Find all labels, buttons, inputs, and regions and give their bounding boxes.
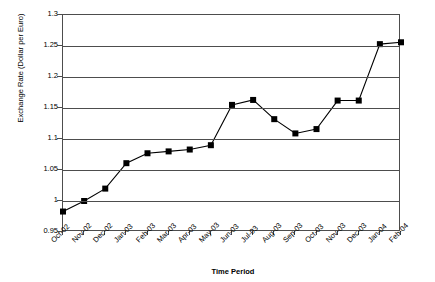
exchange-rate-line-chart: Exchange Rate (Dollar per Euro) 1.31.251… [0,0,435,282]
x-axis-tick-label: Nov-02 [70,221,93,244]
x-axis-tick-label: Jan-03 [112,222,135,245]
x-axis-title: Time Period [150,267,316,276]
x-axis-tick-label: Jun-03 [218,222,241,245]
x-axis-tick-label: Mar-03 [155,221,178,244]
x-axis-tick-label: Dec-03 [345,221,368,244]
x-axis-tick-label: Jul-03 [239,224,260,245]
x-axis-tick-label: Oct-03 [303,222,325,244]
x-axis-tick-label: Dec-02 [91,221,114,244]
x-axis-tick-label: Jan-04 [366,222,389,245]
x-axis-tick-label: Apr-03 [176,222,198,244]
x-axis-tick-label: May-03 [197,220,221,244]
x-axis-tick-label: Nov-03 [324,221,347,244]
x-axis-tick-labels: Oct-02Nov-02Dec-02Jan-03Feb-03Mar-03Apr-… [0,0,435,282]
x-axis-tick-label: Feb-04 [387,221,410,244]
x-axis-tick-label: Sep-03 [281,221,304,244]
x-axis-tick-label: Aug-03 [260,221,283,244]
x-axis-tick-label: Oct-02 [49,222,71,244]
x-axis-tick-label: Feb-03 [134,221,157,244]
